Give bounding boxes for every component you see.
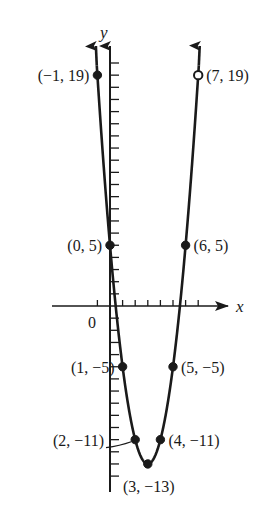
data-point	[194, 71, 202, 79]
data-point	[181, 241, 189, 249]
curve-arrow-left	[96, 46, 97, 65]
data-point	[93, 71, 101, 79]
x-axis-label: x	[235, 297, 244, 316]
data-point	[131, 435, 139, 443]
data-point	[144, 460, 152, 468]
point-label: (0, 5)	[67, 237, 102, 255]
origin-label: 0	[88, 314, 96, 331]
point-label: (6, 5)	[194, 237, 229, 255]
point-label: (−1, 19)	[38, 67, 90, 85]
curve-arrow-right	[199, 46, 200, 65]
point-label: (1, −5)	[71, 359, 115, 377]
y-axis-label: y	[98, 23, 108, 42]
data-point	[106, 241, 114, 249]
x-axis-ticks	[97, 300, 198, 306]
parabola-chart: y x 0 (−1, 19)(7, 19)(0, 5)(6, 5)(1, −5)…	[0, 0, 278, 523]
point-label: (4, −11)	[168, 432, 219, 450]
data-point	[156, 435, 164, 443]
data-points: (−1, 19)(7, 19)(0, 5)(6, 5)(1, −5)(5, −5…	[38, 67, 249, 496]
data-point	[118, 363, 126, 371]
point-label: (2, −11)	[53, 432, 104, 450]
axes: y x 0	[52, 23, 244, 492]
parabola-curve	[97, 65, 199, 464]
point-label: (5, −5)	[181, 359, 225, 377]
point-label: (3, −13)	[123, 478, 175, 496]
data-point	[169, 363, 177, 371]
point-label: (7, 19)	[206, 67, 249, 85]
